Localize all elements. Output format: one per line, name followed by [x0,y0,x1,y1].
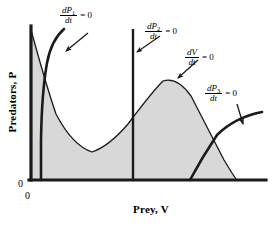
equals-zero: = 0 [162,27,177,36]
equals-zero: = 0 [77,11,92,20]
fraction-denominator: dt [145,32,162,41]
numerator-subscript: 2 [157,25,160,32]
y-axis-title: Predators, P [6,62,18,142]
fraction-dp2: dP2 dt [145,22,162,41]
numerator-subscript: 3 [217,87,220,94]
fraction-denominator: dt [205,94,222,103]
numerator-subscript: 1 [72,9,75,16]
fraction-dp1: dP1 dt [60,6,77,25]
annotation-dp3: dP3 dt = 0 [205,84,237,103]
fraction-dp3: dP3 dt [205,84,222,103]
equals-zero: = 0 [222,89,237,98]
y-axis-zero-label: 0 [18,178,23,189]
x-axis-title: Prey, V [96,203,206,215]
predator-prey-isocline-figure: Predators, P Prey, V 0 0 dP1 dt = 0 dP2 … [0,0,273,226]
fraction-dv: dV dt [185,48,199,67]
annotation-dp2: dP2 dt = 0 [145,22,177,41]
x-axis-zero-label: 0 [25,190,30,201]
arrow-to-dp1 [66,33,88,51]
fraction-denominator: dt [185,58,199,67]
annotation-dp1: dP1 dt = 0 [60,6,92,25]
annotation-dv: dV dt = 0 [185,48,214,67]
fraction-denominator: dt [60,16,77,25]
equals-zero: = 0 [199,53,214,62]
plot-area [0,0,273,226]
